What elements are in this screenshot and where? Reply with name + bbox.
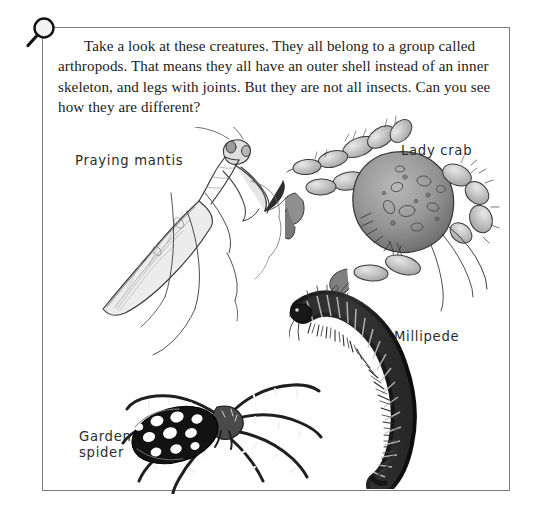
label-garden-spider: Garden spider bbox=[79, 429, 132, 460]
label-lady-crab: Lady crab bbox=[401, 143, 472, 159]
label-praying-mantis: Praying mantis bbox=[75, 153, 183, 169]
garden-spider-illustration bbox=[109, 369, 324, 494]
intro-paragraph: Take a look at these creatures. They all… bbox=[58, 36, 500, 117]
textbook-page: Praying mantis Lady crab Millipede Garde… bbox=[0, 0, 540, 521]
label-millipede: Millipede bbox=[394, 329, 459, 345]
